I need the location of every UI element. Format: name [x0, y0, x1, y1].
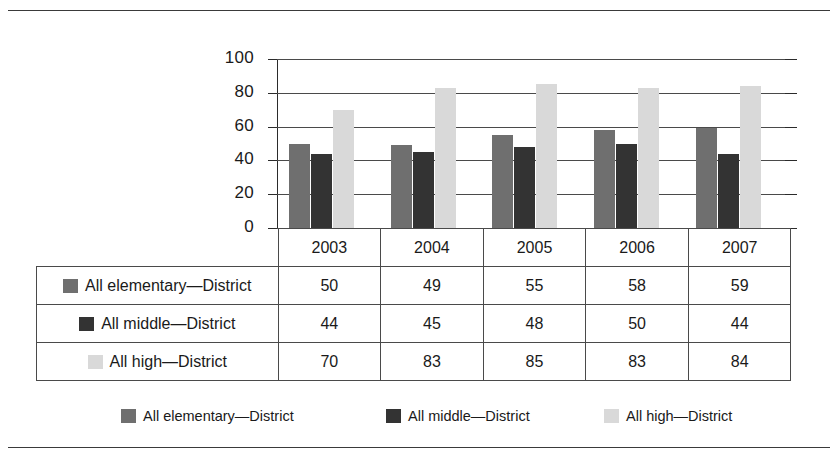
table-row-label-1: All middle—District: [37, 305, 279, 343]
bar-2006-series-1: [616, 144, 637, 229]
legend-color-swatch-icon: [121, 409, 136, 423]
table-cell-r2-c4: 84: [688, 343, 791, 381]
y-tick-left-100: [268, 59, 277, 60]
table-row-label-text: All elementary—District: [85, 277, 251, 294]
bar-2003-series-2: [333, 110, 354, 228]
bars-layer: [277, 59, 785, 228]
table-cell-r1-c2: 48: [483, 305, 586, 343]
table-cell-r1-c4: 44: [688, 305, 791, 343]
legend-item-1: All middle—District: [386, 408, 530, 424]
y-tick-left-80: [268, 93, 277, 94]
table-row-label-0: All elementary—District: [37, 267, 279, 305]
y-tick-left-20: [268, 194, 277, 195]
bar-2004-series-0: [391, 145, 412, 228]
bar-2003-series-1: [311, 154, 332, 228]
y-axis-tick-value: 100: [225, 48, 254, 68]
bottom-divider-rule: [8, 447, 830, 448]
data-table: 20032004200520062007All elementary—Distr…: [36, 228, 785, 381]
bar-group-2005: [480, 59, 582, 228]
series-color-swatch-icon: [88, 355, 103, 369]
bar-2007-series-0: [696, 128, 717, 228]
bar-2004-series-2: [435, 88, 456, 228]
table-cell-r0-c0: 50: [278, 267, 381, 305]
y-axis-tick-value: 40: [234, 149, 254, 169]
y-axis-tick-value: 20: [234, 183, 254, 203]
legend-item-label: All middle—District: [408, 408, 530, 424]
chart-figure: 020406080100 20032004200520062007All ele…: [0, 0, 838, 472]
table-cell-r2-c0: 70: [278, 343, 381, 381]
y-tick-left-40: [268, 160, 277, 161]
table-cell-r2-c1: 83: [381, 343, 484, 381]
bar-2007-series-1: [718, 154, 739, 228]
table-header-year-2007: 2007: [688, 229, 791, 267]
table-cell-r1-c1: 45: [381, 305, 484, 343]
y-axis-tick-value: 80: [234, 82, 254, 102]
legend-item-label: All high—District: [626, 408, 732, 424]
legend-item-0: All elementary—District: [121, 408, 294, 424]
table-corner-cell: [37, 229, 279, 267]
bar-2003-series-0: [289, 144, 310, 229]
series-color-swatch-icon: [63, 279, 78, 293]
table-header-row: 20032004200520062007: [37, 229, 791, 267]
legend-item-2: All high—District: [604, 408, 732, 424]
table-cell-r1-c3: 50: [586, 305, 689, 343]
y-tick-right-40: [785, 160, 797, 161]
bar-2005-series-0: [492, 135, 513, 228]
bar-2005-series-1: [514, 147, 535, 228]
y-tick-right-60: [785, 127, 797, 128]
bar-2005-series-2: [536, 84, 557, 228]
table-row-label-text: All high—District: [110, 353, 227, 370]
table-header-year-2005: 2005: [483, 229, 586, 267]
plot-area: 020406080100: [0, 0, 838, 240]
y-tick-left-60: [268, 127, 277, 128]
legend-item-label: All elementary—District: [143, 408, 294, 424]
bar-group-2004: [379, 59, 481, 228]
table-header-year-2006: 2006: [586, 229, 689, 267]
bar-group-2006: [582, 59, 684, 228]
table-cell-r0-c4: 59: [688, 267, 791, 305]
chart-legend: All elementary—DistrictAll middle—Distri…: [36, 408, 785, 432]
table-cell-r1-c0: 44: [278, 305, 381, 343]
table-header-year-2004: 2004: [381, 229, 484, 267]
table-row: All middle—District4445485044: [37, 305, 791, 343]
table-row-label-2: All high—District: [37, 343, 279, 381]
table-row: All elementary—District5049555859: [37, 267, 791, 305]
y-axis-tick-value: 60: [234, 116, 254, 136]
table-cell-r2-c3: 83: [586, 343, 689, 381]
bar-2006-series-2: [638, 88, 659, 228]
table-header-year-2003: 2003: [278, 229, 381, 267]
table-row: All high—District7083858384: [37, 343, 791, 381]
bar-2006-series-0: [594, 130, 615, 228]
table-cell-r2-c2: 85: [483, 343, 586, 381]
y-tick-right-100: [785, 59, 797, 60]
table-cell-r0-c2: 55: [483, 267, 586, 305]
legend-color-swatch-icon: [604, 409, 619, 423]
y-tick-right-80: [785, 93, 797, 94]
bar-2004-series-1: [413, 152, 434, 228]
table-cell-r0-c3: 58: [586, 267, 689, 305]
bar-group-2007: [683, 59, 785, 228]
y-tick-right-20: [785, 194, 797, 195]
legend-color-swatch-icon: [386, 409, 401, 423]
bar-group-2003: [277, 59, 379, 228]
bar-2007-series-2: [740, 86, 761, 228]
table-cell-r0-c1: 49: [381, 267, 484, 305]
table-row-label-text: All middle—District: [101, 315, 235, 332]
series-color-swatch-icon: [79, 317, 94, 331]
